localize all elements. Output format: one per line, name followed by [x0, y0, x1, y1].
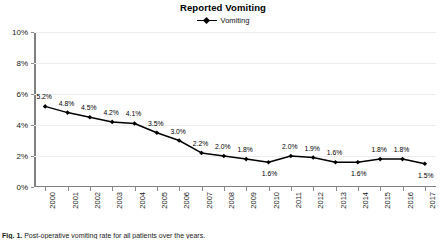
x-tick-mark — [135, 187, 136, 191]
x-tick-mark — [202, 187, 203, 191]
x-tick-label-2003: 2003 — [115, 192, 124, 209]
data-label-2009: 1.8% — [237, 146, 253, 153]
data-label-2004: 4.1% — [126, 110, 142, 117]
x-tick-label-2014: 2014 — [361, 192, 370, 209]
data-point-marker — [266, 160, 271, 165]
data-label-2008: 2.0% — [215, 143, 231, 150]
plot-area: 0%2%4%6%8%10% 20002001200220032004200520… — [34, 32, 436, 187]
x-tick-mark — [112, 187, 113, 191]
data-label-2013: 1.6% — [327, 149, 343, 156]
data-label-2016: 1.8% — [394, 146, 410, 153]
x-tick-mark — [246, 187, 247, 191]
y-tick-label: 8% — [16, 59, 28, 68]
figure-container: Reported Vomiting Vomiting 0%2%4%6%8%10%… — [0, 0, 446, 241]
x-tick-label-2007: 2007 — [205, 192, 214, 209]
data-point-marker — [400, 157, 405, 162]
data-point-marker — [222, 154, 227, 159]
x-tick-mark — [157, 187, 158, 191]
data-point-marker — [155, 130, 160, 135]
x-tick-label-2000: 2000 — [48, 192, 57, 209]
x-tick-mark — [358, 187, 359, 191]
x-tick-mark — [269, 187, 270, 191]
data-label-2000: 5.2% — [36, 93, 52, 100]
x-tick-label-2013: 2013 — [339, 192, 348, 209]
chart-title: Reported Vomiting — [0, 2, 446, 13]
data-label-2002: 4.5% — [81, 104, 97, 111]
series-polyline — [45, 106, 425, 163]
caption-text: Post-operative vomiting rate for all pat… — [22, 232, 205, 239]
y-tick-label: 2% — [16, 152, 28, 161]
x-tick-mark — [403, 187, 404, 191]
data-label-2005: 3.5% — [148, 119, 164, 126]
data-point-marker — [43, 104, 48, 109]
data-point-marker — [244, 157, 249, 162]
data-point-marker — [110, 120, 115, 125]
x-tick-label-2012: 2012 — [316, 192, 325, 209]
chart-legend: Vomiting — [0, 16, 446, 25]
data-label-2012: 1.9% — [304, 144, 320, 151]
data-label-2015: 1.8% — [371, 146, 387, 153]
figure-caption: Fig. 1. Post-operative vomiting rate for… — [2, 232, 332, 239]
data-point-marker — [311, 155, 316, 160]
y-tick-mark — [31, 187, 35, 188]
data-label-2010: 1.6% — [262, 170, 278, 177]
x-tick-label-2009: 2009 — [249, 192, 258, 209]
x-tick-label-2008: 2008 — [227, 192, 236, 209]
data-point-marker — [423, 161, 428, 166]
data-label-2011: 2.0% — [282, 143, 298, 150]
data-label-2006: 3.0% — [170, 127, 186, 134]
x-tick-label-2016: 2016 — [406, 192, 415, 209]
x-tick-label-2010: 2010 — [272, 192, 281, 209]
y-tick-label: 4% — [16, 121, 28, 130]
x-tick-mark — [68, 187, 69, 191]
data-label-2007: 2.2% — [193, 139, 209, 146]
x-tick-mark — [179, 187, 180, 191]
x-tick-label-2001: 2001 — [71, 192, 80, 209]
data-point-marker — [88, 115, 93, 120]
data-label-2014: 1.6% — [351, 170, 367, 177]
x-tick-label-2004: 2004 — [138, 192, 147, 209]
x-tick-mark — [45, 187, 46, 191]
y-tick-label: 6% — [16, 90, 28, 99]
data-point-marker — [289, 154, 294, 159]
x-tick-mark — [291, 187, 292, 191]
legend-label-vomiting: Vomiting — [221, 16, 250, 25]
data-label-2017: 1.5% — [418, 171, 434, 178]
data-point-marker — [356, 160, 361, 165]
x-tick-mark — [336, 187, 337, 191]
y-tick-label: 0% — [16, 183, 28, 192]
data-label-2003: 4.2% — [103, 108, 119, 115]
x-tick-label-2006: 2006 — [182, 192, 191, 209]
x-tick-label-2011: 2011 — [294, 192, 303, 208]
data-point-marker — [378, 157, 383, 162]
x-tick-mark — [90, 187, 91, 191]
x-tick-label-2015: 2015 — [383, 192, 392, 209]
data-point-marker — [65, 110, 70, 115]
x-tick-label-2005: 2005 — [160, 192, 169, 209]
x-tick-label-2017: 2017 — [428, 192, 437, 209]
caption-label: Fig. 1. — [2, 232, 22, 239]
y-tick-label: 10% — [12, 28, 28, 37]
data-point-marker — [333, 160, 338, 165]
x-tick-mark — [380, 187, 381, 191]
data-label-2001: 4.8% — [59, 99, 75, 106]
x-tick-mark — [425, 187, 426, 191]
data-point-marker — [132, 121, 137, 126]
x-tick-label-2002: 2002 — [93, 192, 102, 209]
legend-marker-icon — [197, 17, 217, 25]
x-tick-mark — [313, 187, 314, 191]
x-tick-mark — [224, 187, 225, 191]
